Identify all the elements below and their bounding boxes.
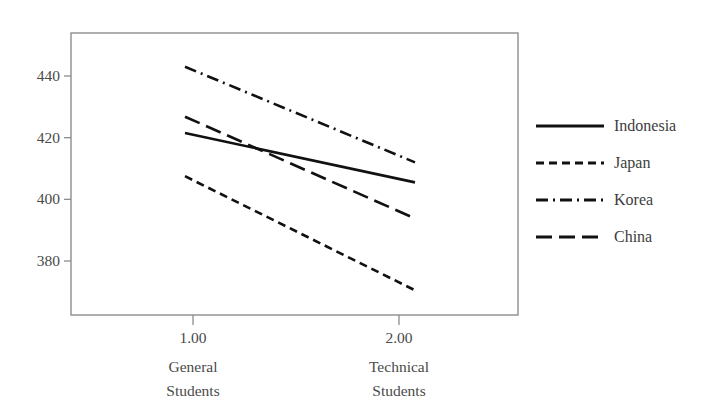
y-tick-label-400: 400 [37,190,61,207]
y-tick-label-440: 440 [37,67,61,84]
x-category-label-line1: Technical [369,358,429,375]
x-category-label-line1: General [168,358,217,375]
y-tick-label-380: 380 [37,252,61,269]
legend-label-korea: Korea [614,191,653,208]
chart-canvas: 440420400380 1.00GeneralStudents2.00Tech… [0,0,718,411]
y-axis: 440420400380 [37,67,71,269]
x-category-label-line2: Students [166,382,219,399]
legend-label-china: China [614,228,652,245]
x-tick-label-2.00: 2.00 [385,329,412,346]
x-tick-label-1.00: 1.00 [179,329,206,346]
legend-label-japan: Japan [614,154,650,172]
legend-label-indonesia: Indonesia [614,117,676,134]
chart-legend: IndonesiaJapanKoreaChina [536,117,676,245]
plot-frame [71,33,518,315]
y-tick-label-420: 420 [37,129,61,146]
x-axis: 1.00GeneralStudents2.00TechnicalStudents [166,315,429,399]
x-category-label-line2: Students [372,382,425,399]
profile-plot-chart: 440420400380 1.00GeneralStudents2.00Tech… [0,0,718,411]
